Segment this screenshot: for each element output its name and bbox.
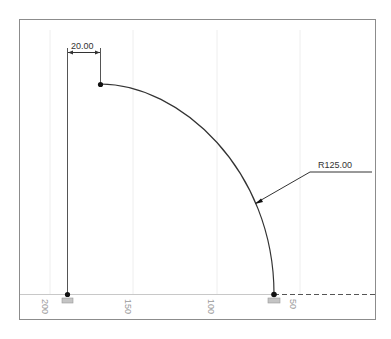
endpoint-top[interactable] — [98, 82, 103, 87]
axis-label-50: 50 — [288, 299, 298, 309]
dimension-horizontal[interactable]: 20.00 — [68, 41, 101, 84]
endpoint-left-base[interactable] — [65, 292, 70, 297]
axis-label-100: 100 — [206, 299, 216, 314]
fixed-constraint-icon[interactable] — [62, 298, 73, 303]
arrow-right-icon — [95, 51, 100, 55]
endpoint-right-base[interactable] — [271, 292, 277, 298]
axis-label-150: 150 — [123, 299, 133, 314]
arc-curve[interactable] — [100, 84, 274, 294]
dimension-label-radius: R125.00 — [318, 160, 352, 170]
arrow-left-icon — [68, 51, 73, 55]
dimension-label-offset: 20.00 — [71, 41, 94, 51]
axis-label-200: 200 — [40, 299, 50, 314]
fixed-constraint-icon[interactable] — [268, 298, 280, 303]
sketch-canvas[interactable]: 20.00 R125.00 200 150 100 50 — [0, 0, 391, 339]
dimension-radius[interactable]: R125.00 — [255, 160, 372, 204]
grid — [50, 30, 300, 294]
